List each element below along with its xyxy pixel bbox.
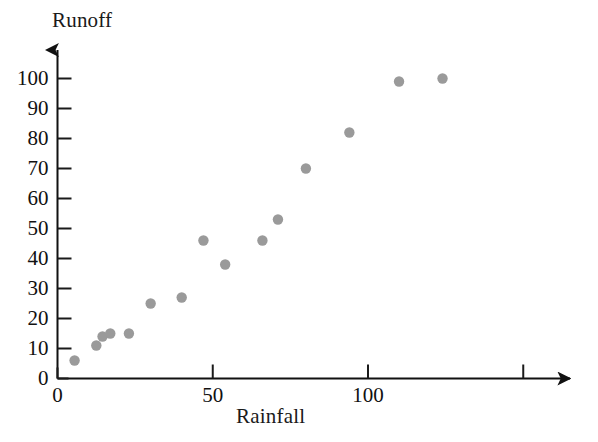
data-point (344, 127, 354, 137)
data-point (91, 340, 101, 350)
y-tick-label: 80 (5, 126, 49, 151)
data-point (394, 76, 404, 86)
data-point (105, 328, 115, 338)
y-axis-title: Runoff (52, 8, 112, 33)
data-point (220, 259, 230, 269)
data-point (124, 328, 134, 338)
y-tick-label: 20 (5, 306, 49, 331)
y-tick-label: 10 (5, 336, 49, 361)
data-points (69, 73, 447, 365)
x-tick-label: 0 (28, 383, 88, 408)
x-tick-label: 100 (338, 383, 398, 408)
y-tick-label: 50 (5, 216, 49, 241)
data-point (145, 298, 155, 308)
data-point (198, 235, 208, 245)
y-tick-label: 30 (5, 276, 49, 301)
x-axis-ticks (58, 365, 524, 379)
y-axis-ticks (58, 79, 72, 379)
scatter-plot-figure: Runoff Rainfall 010203040506070809010005… (0, 0, 598, 442)
data-point (69, 355, 79, 365)
data-point (177, 292, 187, 302)
data-point (257, 235, 267, 245)
axes (58, 50, 571, 379)
plot-canvas (0, 0, 598, 442)
data-point (437, 73, 447, 83)
x-tick-label: 50 (183, 383, 243, 408)
data-point (273, 214, 283, 224)
x-axis-title: Rainfall (236, 404, 305, 429)
y-tick-label: 40 (5, 246, 49, 271)
data-point (301, 163, 311, 173)
y-tick-label: 90 (5, 96, 49, 121)
y-tick-label: 60 (5, 186, 49, 211)
y-tick-label: 70 (5, 156, 49, 181)
y-tick-label: 100 (5, 66, 49, 91)
